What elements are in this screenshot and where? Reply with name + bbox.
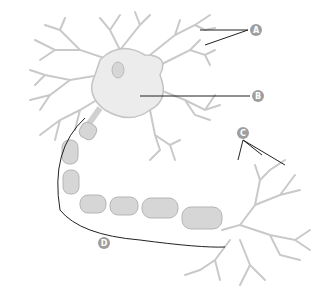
nucleus [112, 62, 124, 78]
cell-body [92, 49, 164, 118]
label-D-text: D [101, 239, 108, 248]
myelin-sheath [62, 120, 222, 229]
label-C: C [237, 127, 249, 139]
label-A-text: A [253, 26, 260, 35]
label-B-text: B [255, 92, 261, 101]
label-C-text: C [240, 129, 246, 138]
label-A: A [250, 24, 262, 36]
label-B: B [252, 90, 264, 102]
label-D: D [98, 237, 110, 249]
neuron-diagram: A B C D [0, 0, 330, 303]
